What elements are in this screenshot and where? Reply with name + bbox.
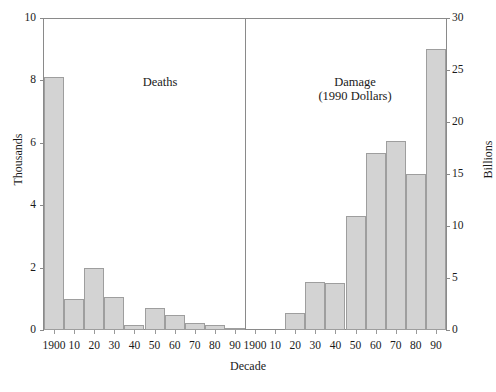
x-tick-mark [155,330,156,334]
y-tick-mark-right [446,122,450,123]
y-axis-left-title: Thousands [11,120,26,200]
panel-title-deaths: Deaths [100,75,220,89]
x-axis-title: Decade [0,359,496,374]
x-tick-mark [134,330,135,334]
bar [366,153,386,330]
bar [64,299,84,330]
y-tick-label-right: 5 [452,271,486,283]
bar [305,282,325,330]
x-tick-mark [315,330,316,334]
y-tick-label-left: 0 [2,323,36,335]
bar [386,141,406,330]
x-tick-mark [335,330,336,334]
bar [145,308,165,330]
y-tick-mark-left [40,330,44,331]
panel-title-deaths-text: Deaths [100,75,220,89]
x-tick-mark [54,330,55,334]
x-tick-mark [295,330,296,334]
x-tick-mark [356,330,357,334]
bar [104,297,124,330]
y-tick-mark-left [40,18,44,19]
x-tick-label-damage: 90 [416,339,456,351]
bar [325,283,345,330]
y-tick-label-left: 2 [2,261,36,273]
bar [406,174,426,330]
panel-title-damage-line2: (1990 Dollars) [295,89,415,103]
panel-title-damage: Damage (1990 Dollars) [295,75,415,103]
x-tick-mark [114,330,115,334]
x-tick-mark [396,330,397,334]
x-tick-mark [376,330,377,334]
y-tick-label-left: 8 [2,73,36,85]
y-tick-label-right: 10 [452,219,486,231]
y-tick-label-right: 25 [452,63,486,75]
x-tick-mark [436,330,437,334]
y-axis-right-title: Billions [481,120,496,200]
figure-container: 0246810 051015202530 1900102030405060708… [0,0,496,392]
x-tick-mark [235,330,236,334]
y-tick-label-right: 30 [452,11,486,23]
y-tick-mark-right [446,226,450,227]
bar [225,328,245,330]
bar [346,216,366,330]
x-tick-mark [74,330,75,334]
x-tick-mark [275,330,276,334]
panel-title-damage-line1: Damage [295,75,415,89]
x-tick-mark [416,330,417,334]
y-tick-mark-right [446,18,450,19]
y-tick-mark-right [446,70,450,71]
y-tick-mark-right [446,278,450,279]
bar [285,313,305,330]
x-tick-mark [255,330,256,334]
x-tick-mark [215,330,216,334]
x-tick-mark [175,330,176,334]
bar [44,77,64,330]
bar [165,315,185,330]
bar [185,323,205,330]
y-tick-mark-right [446,174,450,175]
bar [124,325,144,330]
bar [84,268,104,330]
y-tick-mark-right [446,330,450,331]
x-tick-mark [94,330,95,334]
panel-divider [245,18,246,330]
y-tick-label-right: 0 [452,323,486,335]
bar [205,325,225,330]
y-tick-label-left: 10 [2,11,36,23]
bar [426,49,446,330]
x-tick-mark [195,330,196,334]
y-tick-label-left: 4 [2,198,36,210]
